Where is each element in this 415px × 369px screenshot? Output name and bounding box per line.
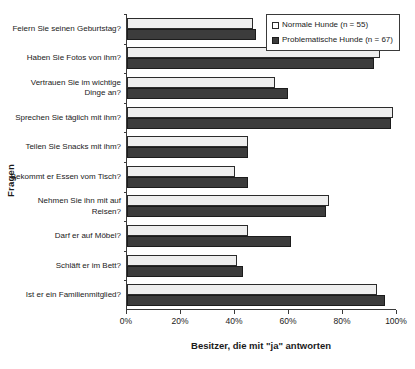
category-label: Feiern Sie seinen Geburtstag? [9,24,121,35]
x-axis-tick [288,310,289,314]
bar-group [127,280,396,310]
legend-swatch-problematische-icon [272,37,279,44]
category-row: Ist er ein Familienmitglied? [127,280,396,310]
category-label: Darf er auf Möbel? [9,231,121,242]
bar-problematische [127,118,391,129]
bar-problematische [127,266,243,277]
chart-legend: Normale Hunde (n = 55) Problematische Hu… [266,14,400,51]
x-axis-tick [396,310,397,314]
bar-normale [127,107,393,118]
plot-area: Feiern Sie seinen Geburtstag?Haben Sie F… [126,14,396,310]
x-axis-tick [180,310,181,314]
bar-group [127,132,396,162]
legend-label-problematische: Problematische Hunde (n = 67) [282,34,393,46]
bar-normale [127,225,248,236]
x-axis-ticks [126,310,396,315]
x-axis-tick [342,310,343,314]
bar-group [127,192,396,222]
bar-problematische [127,29,256,40]
bar-normale [127,136,248,147]
bar-normale [127,77,275,88]
x-axis-tick-label: 20% [171,316,188,326]
legend-label-normale: Normale Hunde (n = 55) [282,19,368,31]
category-row: Schläft er im Bett? [127,251,396,281]
bar-normale [127,284,377,295]
x-axis-tick [126,310,127,314]
bar-group [127,73,396,103]
bar-group [127,251,396,281]
category-row: Teilen Sie Snacks mit ihm? [127,132,396,162]
category-label: Vertrauen Sie im wichtige Dinge an? [9,77,121,98]
category-row: Sprechen Sie täglich mit ihm? [127,103,396,133]
x-axis-tick-label: 80% [333,316,350,326]
bar-problematische [127,236,291,247]
bar-problematische [127,206,326,217]
legend-item-problematische: Problematische Hunde (n = 67) [272,34,393,46]
x-axis-tick-label: 60% [279,316,296,326]
category-row: Darf er auf Möbel? [127,221,396,251]
category-label: Schläft er im Bett? [9,260,121,271]
category-label: Ist er ein Familienmitglied? [9,290,121,301]
bar-normale [127,195,329,206]
bar-problematische [127,147,248,158]
bar-problematische [127,88,288,99]
category-label: Teilen Sie Snacks mit ihm? [9,142,121,153]
x-axis-title: Besitzer, die mit "ja" antworten [126,340,396,351]
x-axis-tick-label: 0% [120,316,132,326]
category-rows: Feiern Sie seinen Geburtstag?Haben Sie F… [127,14,396,309]
bar-group [127,221,396,251]
bar-chart: Fragen Feiern Sie seinen Geburtstag?Habe… [0,0,415,369]
bar-normale [127,166,235,177]
category-row: Vertrauen Sie im wichtige Dinge an? [127,73,396,103]
legend-item-normale: Normale Hunde (n = 55) [272,19,393,31]
category-label: Haben Sie Fotos von ihm? [9,53,121,64]
bar-normale [127,18,253,29]
bar-problematische [127,58,374,69]
category-label: Nehmen Sie ihn mit auf Reisen? [9,196,121,217]
bar-group [127,103,396,133]
bar-group [127,162,396,192]
bar-problematische [127,295,385,306]
x-axis-tick-label: 40% [225,316,242,326]
category-row: Nehmen Sie ihn mit auf Reisen? [127,192,396,222]
x-axis-tick [234,310,235,314]
category-row: Bekommt er Essen vom Tisch? [127,162,396,192]
category-label: Sprechen Sie täglich mit ihm? [9,112,121,123]
category-label: Bekommt er Essen vom Tisch? [9,172,121,183]
bar-problematische [127,177,248,188]
x-axis-tick-label: 100% [385,316,407,326]
x-axis-tick-labels: 0%20%40%60%80%100% [126,316,396,330]
legend-swatch-normale-icon [272,22,279,29]
bar-normale [127,255,237,266]
